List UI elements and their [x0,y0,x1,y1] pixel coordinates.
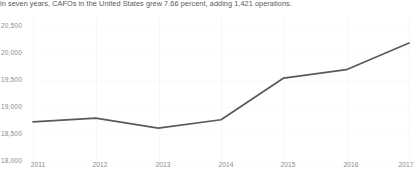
chart-screenshot: in seven years, CAFOs in the United Stat… [0,0,418,176]
gridline-vertical [96,18,97,165]
gridline-vertical [347,18,348,165]
gridline-vertical [284,18,285,165]
x-tick-label: 2013 [155,160,170,170]
x-tick-label: 2015 [280,160,295,170]
x-tick-label: 2012 [92,160,107,170]
gridline-vertical [33,18,34,165]
x-tick-label: 2011 [31,160,46,170]
gridline-vertical [221,18,222,165]
gridline-vertical [159,18,160,165]
x-tick-label: 2014 [218,160,233,170]
x-tick-label: 2017 [398,160,413,170]
x-axis: 2011 2012 2013 2014 2015 2016 2017 [0,160,418,176]
plot-canvas [33,18,410,165]
x-tick-label: 2016 [343,160,358,170]
gridline-vertical [409,18,410,165]
plot-area [0,8,418,176]
